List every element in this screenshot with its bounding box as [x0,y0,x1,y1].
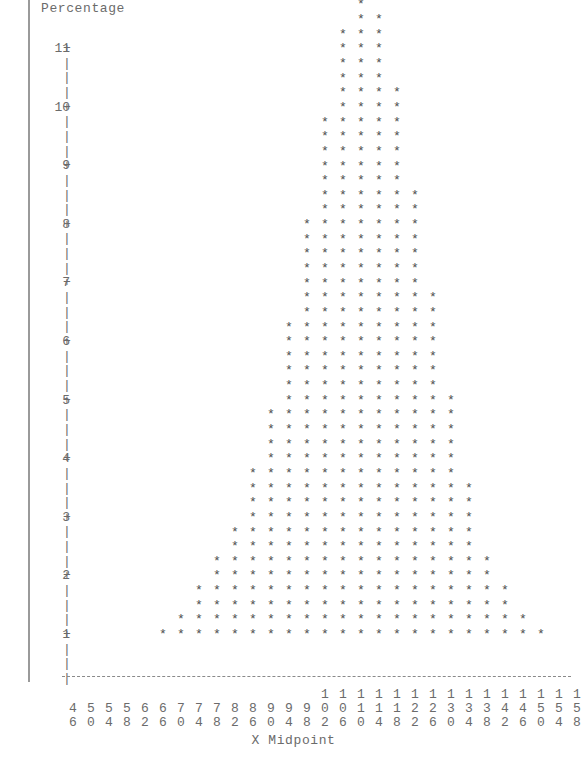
x-axis-tick-digit: 1 [355,702,367,716]
star-mark: * [446,467,456,480]
star-mark: * [338,130,348,143]
star-mark: * [302,540,312,553]
star-mark: * [392,394,402,407]
star-mark: * [464,511,474,524]
star-mark: * [356,569,366,582]
star-mark: * [212,628,222,641]
star-mark: * [248,613,258,626]
x-axis-tick-digit: 0 [337,702,349,716]
star-mark: * [320,526,330,539]
star-mark: * [356,291,366,304]
x-axis-tick-digit [85,688,97,702]
star-mark: * [374,262,384,275]
star-mark: * [320,335,330,348]
star-mark: * [410,599,420,612]
star-mark: * [338,364,348,377]
x-axis-tick-digit: 8 [229,702,241,716]
star-mark: * [356,555,366,568]
x-axis-tick-digit: 9 [301,702,313,716]
star-mark: * [320,482,330,495]
x-axis-tick-digit: 5 [85,702,97,716]
star-mark: * [320,540,330,553]
star-mark: * [338,247,348,260]
star-mark: * [374,467,384,480]
star-mark: * [464,496,474,509]
star-mark: * [410,555,420,568]
star-mark: * [428,379,438,392]
star-mark: * [320,555,330,568]
x-axis-tick-digit: 0 [85,716,97,730]
star-mark: * [284,364,294,377]
x-axis-tick-digit: 2 [139,716,151,730]
star-mark: * [302,218,312,231]
star-mark: * [320,116,330,129]
x-axis-tick-digit: 8 [211,716,223,730]
star-mark: * [410,306,420,319]
star-mark: * [356,203,366,216]
star-mark: * [338,452,348,465]
star-mark: * [374,189,384,202]
star-mark: * [464,613,474,626]
star-mark: * [482,555,492,568]
star-mark: * [410,394,420,407]
x-axis-tick-digit: 1 [373,688,385,702]
x-axis-tick-digit: 4 [103,716,115,730]
star-mark: * [338,628,348,641]
star-mark: * [266,496,276,509]
star-mark: * [356,306,366,319]
star-mark: * [266,511,276,524]
x-axis-tick-digit: 5 [535,702,547,716]
x-axis-tick-label: 146 [517,688,529,730]
star-mark: * [356,467,366,480]
x-axis-tick-digit: 3 [445,702,457,716]
star-mark: * [266,526,276,539]
star-mark: * [446,569,456,582]
star-mark: * [428,394,438,407]
star-mark: * [356,364,366,377]
star-mark: * [374,116,384,129]
x-axis-tick-digit: 6 [157,702,169,716]
star-mark: * [446,540,456,553]
x-axis-tick-digit: 5 [571,702,583,716]
x-axis-tick-label: 154 [553,688,565,730]
star-mark: * [338,306,348,319]
x-axis-tick-digit: 1 [535,688,547,702]
star-mark: * [428,452,438,465]
star-mark: * [464,526,474,539]
star-mark: * [320,277,330,290]
x-axis-tick-digit: 4 [193,716,205,730]
star-mark: * [374,28,384,41]
x-axis-tick-label: 54 [103,688,115,730]
star-mark: * [500,613,510,626]
star-mark: * [410,511,420,524]
star-mark: * [320,247,330,260]
star-mark: * [302,277,312,290]
star-mark: * [428,438,438,451]
star-mark: * [428,306,438,319]
star-mark: * [356,116,366,129]
star-mark: * [284,584,294,597]
star-mark: * [356,613,366,626]
star-mark: * [338,394,348,407]
star-mark: * [428,496,438,509]
star-mark: * [338,101,348,114]
star-mark: * [500,628,510,641]
x-axis-tick-label: 70 [175,688,187,730]
x-axis-tick-digit: 6 [157,716,169,730]
x-axis-tick-digit: 1 [445,688,457,702]
star-mark: * [266,467,276,480]
star-mark: * [356,57,366,70]
star-mark: * [374,613,384,626]
star-mark: * [212,613,222,626]
star-mark: * [284,438,294,451]
star-mark: * [356,423,366,436]
star-mark: * [320,233,330,246]
star-mark: * [392,555,402,568]
star-mark: * [284,569,294,582]
x-axis-tick-digit: 1 [481,688,493,702]
star-mark: * [374,423,384,436]
star-mark: * [374,482,384,495]
x-axis-tick-digit: 1 [427,688,439,702]
star-mark: * [320,364,330,377]
star-mark: * [428,569,438,582]
